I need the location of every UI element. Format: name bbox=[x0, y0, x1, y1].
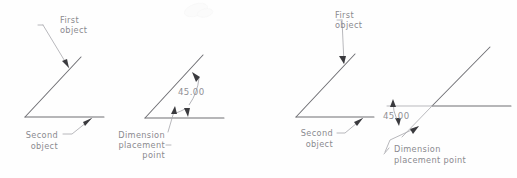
panel-interior-angle-dimension: 45.00 Dimension placement point bbox=[118, 55, 224, 160]
second-object-label-line2: object bbox=[31, 141, 59, 151]
angle-arc-arrowhead-lower bbox=[184, 108, 190, 117]
figure-canvas: First object Second object 45.00 Dimensi… bbox=[0, 0, 517, 178]
panel-exterior-angle-dimension: 45.00 Dimension placement point bbox=[383, 47, 511, 165]
ext-first-object-line[interactable] bbox=[432, 47, 490, 106]
first-object-label-line1: First bbox=[60, 15, 79, 25]
second-object-label-2-line1: Second bbox=[301, 128, 333, 138]
first-object-leader-arrowhead-2 bbox=[339, 56, 346, 64]
dimension-value-interior: 45.00 bbox=[178, 87, 205, 97]
placement-label-line2: placement bbox=[118, 140, 165, 150]
dimension-value-exterior: 45.00 bbox=[383, 111, 410, 121]
first-object-label-2-line2: object bbox=[335, 20, 363, 30]
ext-arc-arrowhead-upper bbox=[390, 99, 396, 107]
ext-placement-label-line1: Dimension bbox=[394, 144, 441, 154]
first-object-leader-arrowhead bbox=[62, 59, 69, 68]
watermark-smudge bbox=[183, 1, 214, 20]
first-object-line[interactable] bbox=[25, 57, 81, 117]
angle-dimension-arc-lower bbox=[176, 109, 185, 113]
first-object-label-2-line1: First bbox=[335, 10, 354, 20]
second-object-leader-arrowhead bbox=[83, 118, 92, 126]
second-object-label-line1: Second bbox=[26, 130, 58, 140]
ext-placement-label-line2: placement point bbox=[394, 155, 467, 165]
placement-label-line3: point bbox=[142, 150, 165, 160]
second-object-label-2-line2: object bbox=[306, 139, 334, 149]
first-object-line-2[interactable] bbox=[296, 54, 355, 117]
panel-select-objects-exterior: First object Second object bbox=[296, 10, 374, 149]
panel-select-objects-interior: First object Second object bbox=[25, 15, 104, 151]
first-object-label-line2: object bbox=[60, 25, 88, 35]
placement-label-line1: Dimension bbox=[118, 130, 165, 140]
angular-dimension-figure: First object Second object 45.00 Dimensi… bbox=[0, 0, 517, 178]
placement-point-arrowhead bbox=[171, 106, 177, 114]
